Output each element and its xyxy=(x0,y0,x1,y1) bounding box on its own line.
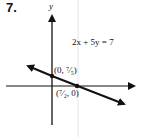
equation-line-left xyxy=(28,66,52,76)
graph-figure: 7. y 2x + 5y = 7 (0, ⁷⁄₅) (⁷⁄₂, 0) xyxy=(0,0,144,137)
x-intercept-label: (⁷⁄₂, 0) xyxy=(56,88,79,98)
equation-label: 2x + 5y = 7 xyxy=(72,37,114,47)
y-axis-label: y xyxy=(49,1,53,11)
y-intercept-label: (0, ⁷⁄₅) xyxy=(54,65,77,75)
